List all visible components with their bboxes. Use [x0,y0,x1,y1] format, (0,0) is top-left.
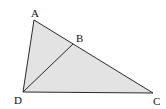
triangle-acd-fill [23,20,153,93]
label-c: C [153,95,160,107]
label-a: A [31,7,39,19]
triangle-diagram: A B D C [0,0,166,109]
label-b: B [76,32,83,44]
label-d: D [14,94,22,106]
